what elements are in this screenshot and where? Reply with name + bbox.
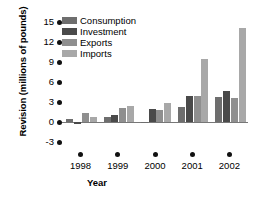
plot-area xyxy=(62,22,248,142)
x-tick-dot xyxy=(190,152,195,157)
bar xyxy=(194,96,201,122)
bar-chart: Revision (millions of pounds) 15129630-3… xyxy=(0,0,258,198)
bar xyxy=(231,98,238,122)
x-tick-dot xyxy=(153,152,158,157)
zero-baseline xyxy=(62,122,248,123)
bar xyxy=(215,97,222,122)
x-tick-label: 2002 xyxy=(209,160,249,171)
x-tick-dot xyxy=(78,152,83,157)
bar xyxy=(156,110,163,122)
bar xyxy=(201,59,208,122)
bar xyxy=(239,28,246,122)
x-tick-dot xyxy=(115,152,120,157)
x-tick-label: 2000 xyxy=(135,160,175,171)
bar xyxy=(186,96,193,122)
x-axis-title: Year xyxy=(62,177,132,188)
bar xyxy=(223,91,230,122)
bar xyxy=(141,122,148,123)
bar xyxy=(74,122,81,124)
x-tick-dot xyxy=(227,152,232,157)
bar xyxy=(164,103,171,122)
y-tick-label: 3 xyxy=(24,96,54,108)
bar xyxy=(66,119,73,122)
y-tick-label: -3 xyxy=(24,136,54,148)
y-tick-label: 9 xyxy=(24,56,54,68)
bar xyxy=(82,113,89,122)
bar xyxy=(90,117,97,122)
bar xyxy=(111,115,118,122)
x-tick-label: 1999 xyxy=(98,160,138,171)
bar xyxy=(104,117,111,122)
x-tick-label: 1998 xyxy=(61,160,101,171)
y-tick-label: 6 xyxy=(24,76,54,88)
bar xyxy=(127,106,134,122)
y-tick-label: 15 xyxy=(24,16,54,28)
bar xyxy=(178,107,185,122)
bar xyxy=(149,109,156,122)
y-tick-label: 12 xyxy=(24,36,54,48)
bar xyxy=(119,108,126,122)
x-tick-label: 2001 xyxy=(172,160,212,171)
y-tick-label: 0 xyxy=(24,116,54,128)
